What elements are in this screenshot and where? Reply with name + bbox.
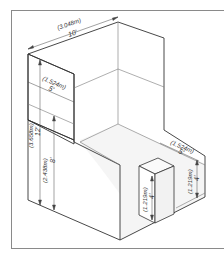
back-width-metric: (3.048m)	[56, 16, 82, 31]
side-height-imperial: 4'	[193, 175, 200, 181]
booth-isometric-diagram: (3.048m) 10' (1.524m) 5' (3.658m) 12' (2…	[0, 0, 224, 260]
total-height-imperial: 12'	[34, 126, 41, 136]
pedestal-height-metric: (1.219m)	[141, 187, 148, 212]
wall-height-imperial: 8'	[49, 157, 56, 163]
wall-height-metric: (2.438m)	[41, 158, 48, 183]
pedestal-height-imperial: 4'	[148, 193, 155, 199]
side-height-metric: (1.219m)	[186, 169, 193, 194]
total-height-metric: (3.658m)	[27, 123, 34, 148]
